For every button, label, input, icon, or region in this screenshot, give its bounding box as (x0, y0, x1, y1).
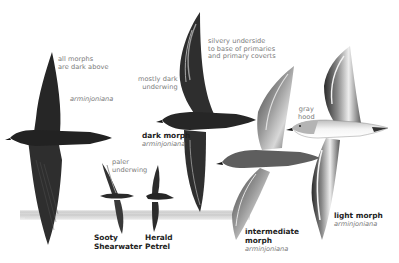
species-label-upperside: arminjoniana (70, 96, 113, 104)
name-intermediate-morph: intermediate morph (245, 228, 299, 245)
annotation-paler-underwing: paler underwing (112, 159, 147, 174)
annotation-line: are dark above (58, 64, 109, 72)
species-label-light-morph: arminjoniana (334, 221, 377, 229)
species-label-dark-morph: arminjoniana (142, 141, 185, 149)
annotation-line: underwing (112, 167, 147, 175)
annotation-all-morphs-dark-above: all morphs are dark above (58, 56, 109, 71)
annotation-gray-hood: gray hood (298, 106, 315, 121)
name-line: Shearwater (94, 243, 142, 252)
name-sooty-shearwater: Sooty Shearwater (94, 234, 142, 251)
annotation-line: and primary coverts (208, 53, 276, 61)
annotation-silvery-underside: silvery underside to base of primaries a… (208, 38, 276, 61)
name-line: Petrel (145, 243, 173, 252)
annotation-line: underwing (138, 84, 178, 92)
bird-herald-petrel-icon (146, 165, 174, 232)
name-line: morph (245, 237, 299, 246)
annotation-line: hood (298, 114, 315, 122)
name-herald-petrel: Herald Petrel (145, 234, 173, 251)
petrel-morph-illustration: all morphs are dark above arminjoniana m… (0, 0, 399, 263)
species-label-intermediate-morph: arminjoniana (245, 246, 288, 254)
annotation-mostly-dark-underwing: mostly dark underwing (138, 76, 178, 91)
